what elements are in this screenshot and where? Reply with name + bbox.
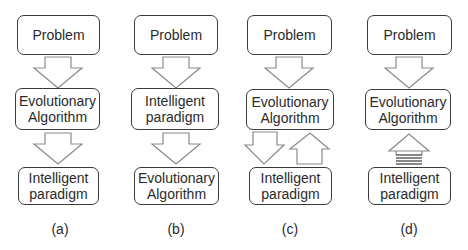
box-text: paradigm (29, 186, 87, 202)
box-text: Problem (263, 27, 315, 43)
box-text: Algorithm (28, 109, 87, 125)
box-text: Evolutionary (138, 170, 215, 186)
intelligent-paradigm-box: Intelligent paradigm (368, 167, 451, 205)
intelligent-paradigm-box: Intelligent paradigm (131, 88, 219, 130)
box-text: paradigm (380, 186, 438, 202)
box-text: Problem (383, 27, 435, 43)
box-text: Algorithm (378, 110, 437, 126)
down-arrow-icon (34, 133, 82, 164)
problem-box: Problem (17, 15, 100, 55)
box-text: Intelligent (29, 170, 89, 186)
evolutionary-algorithm-box: Evolutionary Algorithm (134, 167, 219, 205)
box-text: Problem (32, 27, 84, 43)
evolutionary-algorithm-box: Evolutionary Algorithm (246, 89, 334, 130)
evolutionary-algorithm-box: Evolutionary Algorithm (365, 89, 451, 130)
evolutionary-algorithm-box: Evolutionary Algorithm (15, 88, 100, 130)
panel-label-c: (c) (270, 221, 310, 237)
box-text: Evolutionary (19, 93, 96, 109)
problem-box: Problem (134, 15, 218, 55)
problem-box: Problem (247, 15, 332, 55)
intelligent-paradigm-box: Intelligent paradigm (249, 167, 332, 205)
problem-box: Problem (367, 15, 452, 55)
box-text: Problem (150, 27, 202, 43)
box-text: paradigm (261, 186, 319, 202)
box-text: Intelligent (261, 170, 321, 186)
down-arrow-icon (152, 133, 200, 164)
down-arrow-icon (265, 57, 313, 88)
box-text: Evolutionary (369, 94, 446, 110)
panel-label-b: (b) (156, 221, 196, 237)
down-arrow-icon (385, 57, 433, 88)
box-text: Algorithm (260, 110, 319, 126)
box-text: Intelligent (145, 93, 205, 109)
down-arrow-icon (245, 132, 284, 164)
up-arrow-icon (389, 134, 429, 151)
box-text: Intelligent (380, 170, 440, 186)
box-text: paradigm (146, 109, 204, 125)
down-arrow-icon (152, 57, 200, 88)
down-arrow-icon (34, 57, 82, 88)
box-text: Evolutionary (251, 94, 328, 110)
panel-label-a: (a) (40, 221, 80, 237)
up-arrow-icon (290, 133, 329, 164)
box-text: Algorithm (147, 186, 206, 202)
panel-label-d: (d) (389, 221, 429, 237)
intelligent-paradigm-box: Intelligent paradigm (18, 167, 99, 205)
